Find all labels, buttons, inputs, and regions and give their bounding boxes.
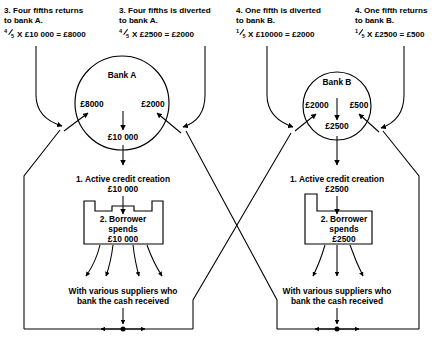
bank-b-to-bank-a-cross-path <box>186 131 277 329</box>
bank-b-credit-line-2: £2500 <box>325 184 349 194</box>
bank-a-suppliers-line-1: With various suppliers who <box>69 286 178 296</box>
heading-2-fraction-numerator: 4 <box>119 28 123 34</box>
bank-b-inflow-arrow-left <box>295 114 316 131</box>
heading-1-fraction-denominator: 5 <box>11 33 14 39</box>
bank-b-borrower-line-1: 2. Borrower <box>321 214 368 224</box>
bank-a-suppliers-line-2: bank the cash received <box>77 296 169 306</box>
bank-b-left-amount: £2000 <box>305 100 329 110</box>
bank-a-total-amount: £10 000 <box>108 132 139 142</box>
heading-3-fraction-denominator: 5 <box>243 33 246 39</box>
heading-3-fraction-numerator: 1 <box>236 28 239 34</box>
bank-b-suppliers-line-1: With various suppliers who <box>283 286 392 296</box>
bank-a-borrower-line-2: spends <box>108 224 138 234</box>
bank-b-outer-return-path <box>383 131 419 329</box>
bank-a-inflow-arrow-left <box>64 113 88 131</box>
bank-a-credit-line-1: 1. Active credit creation <box>76 174 170 184</box>
bank-a-supplier-arrow-4 <box>147 245 162 276</box>
heading-1-line-1: 3. Four fifths returns <box>4 6 84 15</box>
heading-one-fifth-returns-bank-b: 4. One fifth returns to bank B. 1 5 X £2… <box>355 6 428 39</box>
heading-2-line-2: to bank A. <box>119 16 158 25</box>
bank-b-collector-junction-dot <box>335 327 340 332</box>
bank-b-borrower-line-3: £2500 <box>332 234 356 244</box>
feed-curve-heading-2 <box>183 46 205 127</box>
bank-credit-creation-diagram: 3. Four fifths returns to bank A. 4 5 X … <box>0 0 438 337</box>
heading-1-fraction-numerator: 4 <box>4 28 8 34</box>
bank-a-supplier-arrow-2 <box>106 245 113 276</box>
heading-2-fraction-denominator: 5 <box>126 33 129 39</box>
bank-a-supplier-arrow-1 <box>86 245 100 276</box>
bank-a-borrower-line-1: 2. Borrower <box>100 214 147 224</box>
bank-b-borrower-line-2: spends <box>329 224 359 234</box>
bank-b-label: Bank B <box>323 77 352 87</box>
bank-a-right-amount: £2000 <box>141 99 165 109</box>
diagram-canvas: 3. Four fifths returns to bank A. 4 5 X … <box>0 0 438 337</box>
heading-1-line-2: to bank A. <box>4 16 43 25</box>
feed-curve-heading-3 <box>267 46 293 127</box>
heading-2-equation: X £2500 = £2000 <box>132 30 194 39</box>
feed-curve-heading-4 <box>381 46 404 128</box>
heading-1-equation: X £10 000 = £8000 <box>17 30 86 39</box>
heading-4-line-2: to bank B. <box>355 16 394 25</box>
heading-4-line-1: 4. One fifth returns <box>355 6 428 15</box>
bank-b-supplier-arrow-3 <box>350 245 363 276</box>
heading-3-equation: X £10000 = £2000 <box>248 30 315 39</box>
heading-3-line-2: to bank B. <box>236 16 275 25</box>
heading-4-fraction-denominator: 5 <box>362 33 365 39</box>
heading-3-line-1: 4. One fifth is diverted <box>236 6 321 15</box>
heading-4-equation: X £2500 = £500 <box>367 30 425 39</box>
bank-b-right-amount: £500 <box>350 100 369 110</box>
feed-curve-heading-1 <box>36 46 62 126</box>
bank-b-suppliers-line-2: bank the cash received <box>291 296 383 306</box>
bank-b-node: Bank B £2000 £500 £2500 <box>295 72 379 140</box>
bank-b-supplier-arrow-1 <box>313 245 325 276</box>
heading-4-fraction-numerator: 1 <box>355 28 358 34</box>
bank-a-node: Bank A £8000 £2000 £10 000 <box>64 56 181 150</box>
heading-four-fifths-diverted-bank-a: 3. Four fifths is diverted to bank A. 4 … <box>119 6 211 39</box>
heading-four-fifths-returns-bank-a: 3. Four fifths returns to bank A. 4 5 X … <box>4 6 86 39</box>
bank-a-credit-line-2: £10 000 <box>108 184 139 194</box>
bank-b-total-amount: £2500 <box>325 121 349 131</box>
heading-one-fifth-diverted-bank-b: 4. One fifth is diverted to bank B. 1 5 … <box>236 6 321 39</box>
bank-a-left-amount: £8000 <box>80 99 104 109</box>
bank-a-supplier-arrow-3 <box>133 245 139 276</box>
bank-a-label: Bank A <box>108 70 137 80</box>
bank-a-outer-return-path <box>24 130 60 329</box>
bank-a-borrower-line-3: £10 000 <box>108 234 139 244</box>
bank-b-credit-line-1: 1. Active credit creation <box>290 174 384 184</box>
heading-2-line-1: 3. Four fifths is diverted <box>119 6 211 15</box>
bank-a-collector-junction-dot <box>121 327 126 332</box>
